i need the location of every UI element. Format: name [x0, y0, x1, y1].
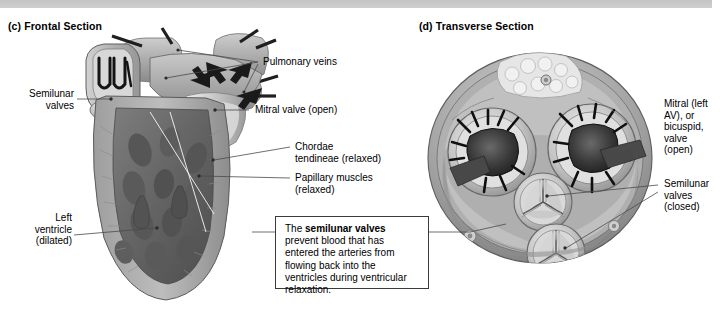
label-line: (closed): [664, 201, 709, 213]
label-mitral-bicuspid-valve: Mitral (left AV), or bicuspid, valve (op…: [664, 98, 708, 156]
left-ventricle: [93, 96, 230, 300]
label-line: Papillary muscles: [295, 172, 373, 184]
label-semilunar-valves-closed: Semilunar valves (closed): [664, 178, 709, 213]
callout-text-before: The: [285, 223, 305, 234]
label-pulmonary-veins: Pulmonary veins: [263, 56, 337, 68]
label-line: valves: [4, 100, 74, 112]
label-line: valve: [664, 133, 708, 145]
label-mitral-valve-open: Mitral valve (open): [255, 104, 337, 116]
label-line: Semilunar: [4, 88, 74, 100]
frontal-section-art: [86, 28, 278, 300]
label-line: (dilated): [4, 235, 72, 247]
label-line: (relaxed): [295, 184, 373, 196]
label-papillary-muscles: Papillary muscles (relaxed): [295, 172, 373, 195]
callout-text-after: prevent blood that has entered the arter…: [285, 235, 407, 295]
label-line: Chordae: [295, 141, 381, 153]
label-line: Left: [4, 212, 72, 224]
label-semilunar-valves-frontal: Semilunar valves: [4, 88, 74, 111]
label-line: valves: [664, 190, 709, 202]
label-line: (open): [664, 144, 708, 156]
callout-box: The semilunar valves prevent blood that …: [275, 216, 429, 289]
label-chordae-tendineae: Chordae tendineae (relaxed): [295, 141, 381, 164]
label-line: bicuspid,: [664, 121, 708, 133]
label-line: AV), or: [664, 110, 708, 122]
label-line: tendineae (relaxed): [295, 153, 381, 165]
label-left-ventricle: Left ventricle (dilated): [4, 212, 72, 247]
callout-bold-term: semilunar valves: [305, 223, 386, 234]
figure-root: (c) Frontal Section (d) Transverse Secti…: [0, 0, 726, 313]
transverse-section-art: [428, 52, 652, 282]
label-line: Semilunar: [664, 178, 709, 190]
semilunar-valve-upper: [514, 173, 572, 231]
label-line: Mitral (left: [664, 98, 708, 110]
label-line: ventricle: [4, 224, 72, 236]
